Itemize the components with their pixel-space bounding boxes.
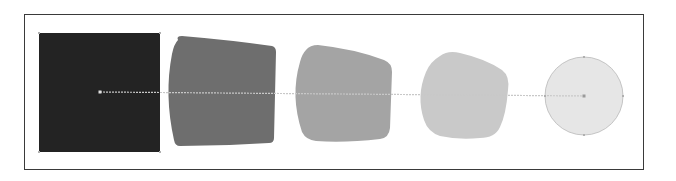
- circle-anchor-point: [583, 134, 585, 136]
- square-anchor-point: [159, 32, 161, 34]
- blend-diagram: [0, 0, 676, 181]
- blend-step-2-shape: [295, 45, 392, 142]
- square-anchor-point: [38, 151, 40, 153]
- spine-start-anchor: [99, 91, 102, 94]
- circle-anchor-point: [583, 56, 585, 58]
- blend-step-1-shape: [168, 36, 276, 146]
- circle-anchor-point: [544, 95, 546, 97]
- circle-anchor-point: [622, 95, 624, 97]
- blend-canvas: [0, 0, 676, 181]
- square-anchor-point: [159, 151, 161, 153]
- spine-end-anchor: [583, 95, 586, 98]
- square-anchor-point: [38, 32, 40, 34]
